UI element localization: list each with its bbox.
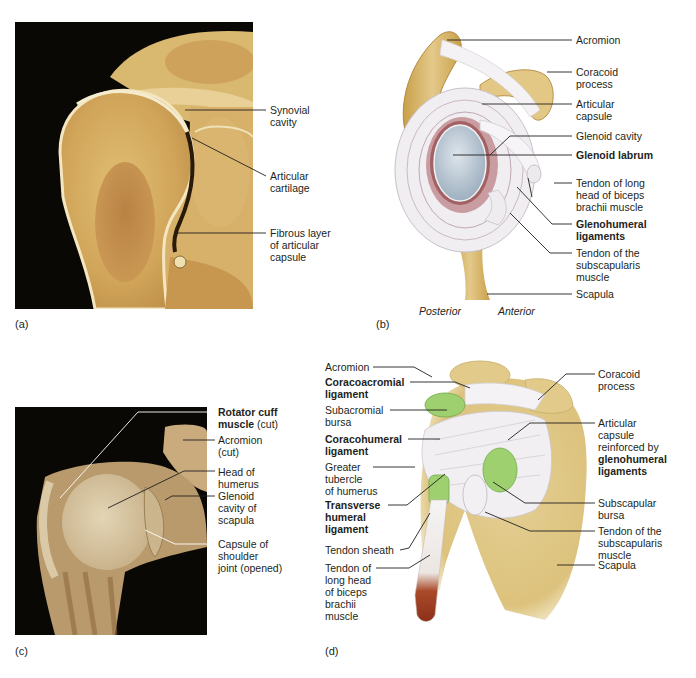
label-d-glenohumeral-ligaments: glenohumeral ligaments [598, 453, 667, 477]
label-b-acromion: Acromion [576, 34, 620, 46]
label-d-coracohumeral-ligament: Coracohumeral ligament [325, 433, 402, 457]
panel-a-photo [15, 22, 253, 309]
label-d-coracoid-process: Coracoid process [598, 368, 640, 392]
label-d-articular-capsule-normal: Articular capsule reinforced by [598, 417, 659, 453]
opened-shoulder-joint-illustration [15, 407, 207, 635]
label-b-subscapularis-tendon: Tendon of the subscapularis muscle [576, 247, 640, 283]
label-b-biceps-tendon: Tendon of long head of biceps brachii mu… [576, 177, 645, 213]
label-d-biceps-tendon: Tendon of long head of biceps brachii mu… [325, 562, 371, 622]
label-articular-cartilage: Articular cartilage [270, 170, 310, 194]
label-b-glenohumeral-ligaments: Glenohumeral ligaments [576, 218, 647, 242]
humerus-section-illustration [15, 22, 253, 309]
label-posterior: Posterior [419, 305, 461, 317]
label-d-tendon-sheath: Tendon sheath [325, 544, 394, 556]
label-d-subscapularis-tendon: Tendon of the subscapularis muscle [598, 525, 662, 561]
label-c-acromion-cut: Acromion (cut) [218, 434, 262, 458]
label-b-articular-capsule: Articular capsule [576, 98, 615, 122]
label-fibrous-layer: Fibrous layer of articular capsule [270, 227, 331, 263]
label-c-rotator-cuff: Rotator cuff muscle (cut) [218, 406, 278, 430]
label-d-coracoacromial-ligament: Coracoacromial ligament [325, 376, 404, 400]
label-anterior: Anterior [498, 305, 535, 317]
label-c-rotator-cuff-cut: (cut) [254, 418, 278, 430]
label-c-capsule: Capsule of shoulder joint (opened) [218, 538, 282, 574]
label-c-glenoid-cavity: Glenoid cavity of scapula [218, 490, 257, 526]
label-d-subscapular-bursa: Subscapular bursa [598, 497, 656, 521]
label-d-acromion: Acromion [325, 361, 369, 373]
label-d-scapula: Scapula [598, 559, 636, 571]
label-c-head-of-humerus: Head of humerus [218, 466, 259, 490]
panel-b-tag: (b) [376, 318, 389, 330]
label-d-articular-capsule: Articular capsule reinforced by glenohum… [598, 417, 667, 477]
panel-d-tag: (d) [325, 645, 338, 657]
label-b-scapula: Scapula [576, 288, 614, 300]
label-d-greater-tubercle: Greater tubercle of humerus [325, 461, 378, 497]
panel-a-tag: (a) [15, 318, 28, 330]
panel-d-illustration [395, 360, 595, 640]
label-b-coracoid-process: Coracoid process [576, 66, 618, 90]
panel-c-photo [15, 407, 207, 635]
label-b-glenoid-cavity: Glenoid cavity [576, 130, 642, 142]
label-synovial-cavity: Synovial cavity [270, 104, 310, 128]
panel-c-tag: (c) [15, 645, 28, 657]
anterior-shoulder-illustration [395, 360, 595, 640]
label-b-glenoid-labrum: Glenoid labrum [576, 149, 653, 161]
label-d-subacromial-bursa: Subacromial bursa [325, 404, 383, 428]
label-d-transverse-humeral-ligament: Transverse humeral ligament [325, 499, 380, 535]
glenoid-cavity-illustration [380, 25, 570, 300]
panel-b-illustration [380, 25, 570, 300]
